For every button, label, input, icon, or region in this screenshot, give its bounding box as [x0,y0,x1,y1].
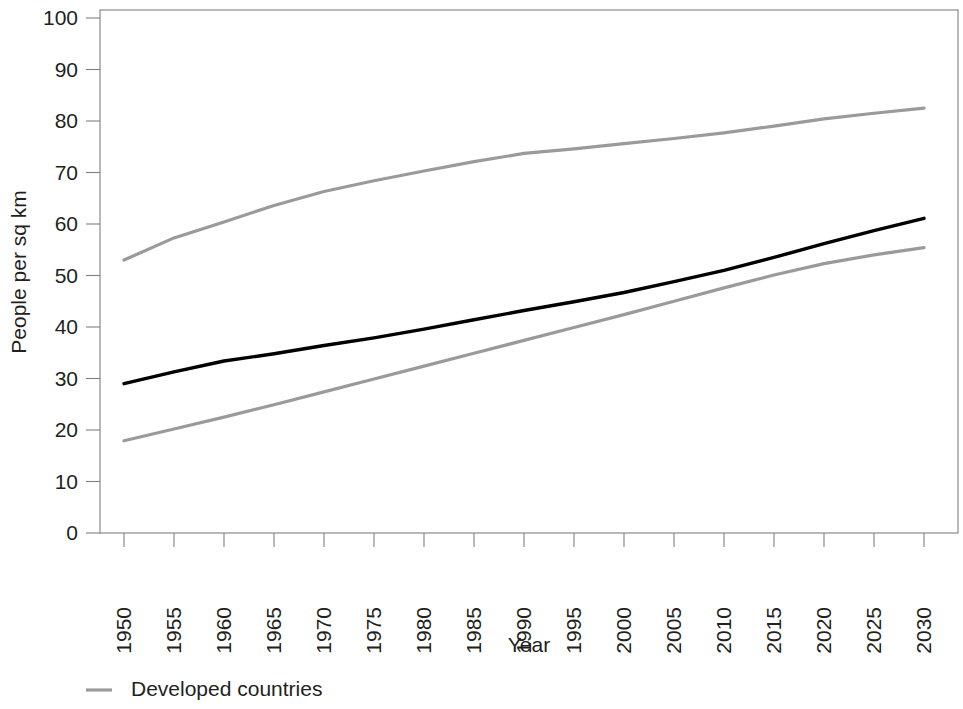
y-tick-label: 40 [55,315,78,338]
x-tick-label: 2000 [612,607,635,654]
y-axis-title: People per sq km [7,190,30,353]
x-axis-ticks [124,533,924,547]
y-tick-label: 60 [55,212,78,235]
plot-frame [100,10,958,533]
x-tick-label: 2005 [662,607,685,654]
y-tick-label: 100 [43,6,78,29]
y-tick-label: 10 [55,470,78,493]
x-tick-label: 2025 [862,607,885,654]
chart-legend: Developed countries [86,677,322,700]
x-tick-label: 1965 [262,607,285,654]
y-tick-label: 90 [55,58,78,81]
x-axis-title: Year [508,633,550,656]
x-tick-label: 1970 [312,607,335,654]
y-tick-label: 70 [55,161,78,184]
y-tick-label: 80 [55,109,78,132]
y-axis-ticks [86,18,100,533]
series-line-lower-gray-series [124,248,924,441]
plot-area-border [100,10,958,533]
y-tick-label: 0 [66,521,78,544]
x-tick-label: 2015 [762,607,785,654]
x-tick-label: 1960 [212,607,235,654]
x-tick-label: 1955 [162,607,185,654]
x-tick-label: 1985 [462,607,485,654]
x-tick-label: 1980 [412,607,435,654]
data-series [124,108,924,441]
x-tick-label: 2030 [912,607,935,654]
x-tick-label: 2010 [712,607,735,654]
y-tick-label: 50 [55,264,78,287]
x-tick-label: 1975 [362,607,385,654]
series-line-black-series [124,218,924,383]
series-line-upper-gray-series [124,108,924,260]
legend-label: Developed countries [131,677,322,700]
y-axis-tick-labels: 0102030405060708090100 [43,6,78,544]
chart-container: 0102030405060708090100 19501955196019651… [0,0,963,709]
x-tick-label: 1950 [112,607,135,654]
y-tick-label: 30 [55,367,78,390]
y-tick-label: 20 [55,418,78,441]
x-tick-label: 1995 [562,607,585,654]
line-chart: 0102030405060708090100 19501955196019651… [0,0,963,709]
x-tick-label: 2020 [812,607,835,654]
